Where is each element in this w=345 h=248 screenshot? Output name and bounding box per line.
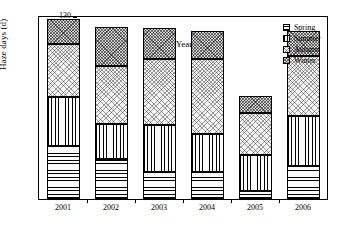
legend-swatch-winter <box>283 57 290 64</box>
x-axis-tick-label: 2001 <box>55 203 71 212</box>
legend-swatch-summer <box>283 35 290 42</box>
bar-segment-spring[interactable] <box>239 191 272 199</box>
bar-segment-spring[interactable] <box>287 166 320 199</box>
x-axis-tick-mark <box>183 199 184 203</box>
bar-segment-autumn[interactable] <box>239 113 272 155</box>
legend-label: Winter <box>294 56 316 65</box>
bar-segment-summer[interactable] <box>143 125 176 172</box>
legend-swatch-spring <box>283 24 290 31</box>
x-axis-tick-label: 2005 <box>247 203 263 212</box>
bar-segment-summer[interactable] <box>47 97 80 146</box>
bar-segment-spring[interactable] <box>95 159 128 199</box>
bar-segment-summer[interactable] <box>239 155 272 191</box>
bar-segment-summer[interactable] <box>191 134 224 172</box>
legend-item-summer[interactable]: Summer <box>283 33 321 43</box>
x-axis-tick-mark <box>135 199 136 203</box>
x-axis-tick-label: 2004 <box>199 203 215 212</box>
y-axis-tick-mark <box>73 199 77 200</box>
y-axis-title: Haze days (d) <box>0 0 8 70</box>
x-axis-tick-label: 2002 <box>103 203 119 212</box>
x-axis-tick-mark <box>279 199 280 203</box>
bar-segment-autumn[interactable] <box>47 44 80 96</box>
legend-item-autumn[interactable]: Autumn <box>283 44 321 54</box>
legend-label: Summer <box>294 34 321 43</box>
chart-legend: SpringSummerAutumnWinter <box>283 22 321 65</box>
x-axis-tick-mark <box>87 199 88 203</box>
legend-swatch-autumn <box>283 46 290 53</box>
bar-segment-autumn[interactable] <box>191 59 224 134</box>
bar-segment-autumn[interactable] <box>287 56 320 116</box>
bar-segment-autumn[interactable] <box>95 66 128 124</box>
x-axis-tick-label: 2006 <box>295 203 311 212</box>
bar-segment-spring[interactable] <box>191 172 224 199</box>
x-axis-tick-mark <box>231 199 232 203</box>
bar-segment-winter[interactable] <box>239 96 272 113</box>
bar-segment-autumn[interactable] <box>143 59 176 126</box>
bar-segment-spring[interactable] <box>143 172 176 199</box>
bar-segment-summer[interactable] <box>287 116 320 166</box>
legend-item-spring[interactable]: Spring <box>283 22 321 32</box>
legend-item-winter[interactable]: Winter <box>283 55 321 65</box>
plot-area: 102030405060708090100110120130 200120022… <box>38 16 328 200</box>
bar-segment-summer[interactable] <box>95 124 128 159</box>
legend-label: Autumn <box>294 45 320 54</box>
chart-figure: Haze days (d) 10203040506070809010011012… <box>0 0 345 248</box>
bar-segment-spring[interactable] <box>47 146 80 199</box>
legend-label: Spring <box>294 23 315 32</box>
x-axis-tick-label: 2003 <box>151 203 167 212</box>
